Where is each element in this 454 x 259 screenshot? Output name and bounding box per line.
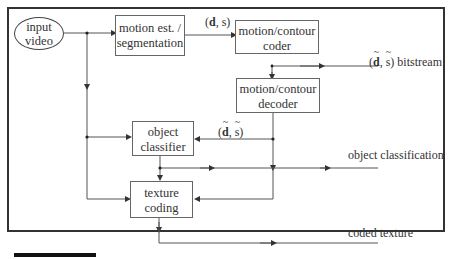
- texture-coding-box: texture coding: [130, 181, 193, 218]
- tex-coding-label-1: texture: [131, 186, 192, 201]
- ds-label: (d, s): [205, 15, 230, 30]
- motion-est-box: motion est. / segmentation: [115, 15, 185, 56]
- input-label-1: input: [15, 20, 63, 34]
- input-video-node: input video: [14, 17, 64, 50]
- motion-contour-decoder-box: motion/contour decoder: [236, 78, 320, 113]
- tex-coding-label-2: coding: [131, 201, 192, 216]
- mc-coder-label-1: motion/contour: [236, 24, 318, 39]
- mc-decoder-label-2: decoder: [237, 97, 319, 112]
- ds-tilde-label: (d, s): [218, 125, 243, 140]
- motion-est-label-1: motion est. /: [116, 21, 184, 36]
- object-classification-label: object classification: [348, 148, 444, 163]
- mc-coder-label-2: coder: [236, 39, 318, 54]
- obj-class-label-1: object: [133, 125, 193, 140]
- coded-texture-label: coded texture: [348, 226, 413, 241]
- object-classifier-box: object classifier: [132, 121, 194, 156]
- motion-est-label-2: segmentation: [116, 36, 184, 51]
- bitstream-label: (d, s) bitstream: [369, 55, 442, 70]
- mc-decoder-label-1: motion/contour: [237, 82, 319, 97]
- obj-class-label-2: classifier: [133, 140, 193, 155]
- input-label-2: video: [15, 34, 63, 48]
- motion-contour-coder-box: motion/contour coder: [235, 20, 319, 54]
